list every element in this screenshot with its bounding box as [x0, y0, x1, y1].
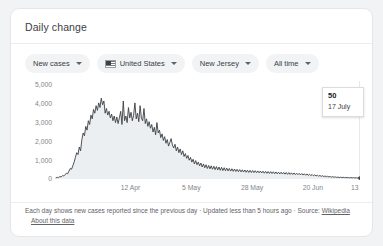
chip-timerange-all-time[interactable]: All time	[266, 54, 319, 73]
chip-timerange-label: All time	[274, 59, 299, 68]
us-flag-icon	[105, 60, 116, 68]
y-tick-label: 0	[48, 175, 52, 182]
chart-tooltip: 50 17 July	[322, 87, 364, 117]
chip-region-label: New Jersey	[200, 59, 239, 68]
tooltip-date: 17 July	[328, 102, 358, 112]
y-tick-label: 3,000	[35, 119, 52, 126]
chip-country-united-states[interactable]: United States	[97, 54, 185, 73]
footer-attribution-line: Each day shows new cases reported since …	[25, 206, 370, 216]
footer-divider	[11, 202, 372, 203]
chart-svg: 01,0002,0003,0004,0005,000 12 Apr5 May28…	[25, 81, 360, 199]
filter-chip-group: New cases United States New Jersey All t…	[25, 54, 319, 73]
x-axis-labels: 12 Apr5 May28 May20 Jun13 Jul	[121, 184, 360, 192]
daily-change-chart[interactable]: 01,0002,0003,0004,0005,000 12 Apr5 May28…	[25, 81, 360, 199]
y-axis-labels: 01,0002,0003,0004,0005,000	[35, 81, 52, 182]
x-tick-label: 12 Apr	[121, 184, 141, 192]
chip-metric-label: New cases	[33, 59, 70, 68]
page-title: Daily change	[25, 21, 87, 33]
tooltip-value: 50	[328, 91, 358, 101]
y-tick-label: 5,000	[35, 81, 52, 88]
y-tick-label: 2,000	[35, 138, 52, 145]
x-tick-label: 20 Jun	[303, 184, 324, 191]
x-tick-label: 5 May	[182, 184, 201, 192]
chart-footer: Each day shows new cases reported since …	[25, 206, 370, 226]
source-link-wikipedia[interactable]: Wikipedia	[322, 207, 350, 214]
footer-about-line: About this data	[31, 216, 370, 226]
title-divider	[11, 43, 372, 44]
chip-region-new-jersey[interactable]: New Jersey	[192, 54, 259, 73]
y-tick-label: 1,000	[35, 157, 52, 164]
hover-data-point	[358, 176, 360, 180]
x-tick-label: 28 May	[241, 184, 264, 192]
chip-metric-new-cases[interactable]: New cases	[25, 54, 90, 73]
chevron-down-icon	[171, 62, 177, 65]
about-this-data-link[interactable]: About this data	[31, 217, 74, 224]
y-tick-label: 4,000	[35, 100, 52, 107]
chevron-down-icon	[305, 62, 311, 65]
x-tick-label: 13 Jul	[351, 184, 360, 191]
daily-change-card: Daily change New cases United States New…	[10, 8, 373, 237]
chip-country-label: United States	[120, 59, 165, 68]
chevron-down-icon	[245, 62, 251, 65]
footer-description: Each day shows new cases reported since …	[25, 207, 320, 214]
chevron-down-icon	[76, 62, 82, 65]
